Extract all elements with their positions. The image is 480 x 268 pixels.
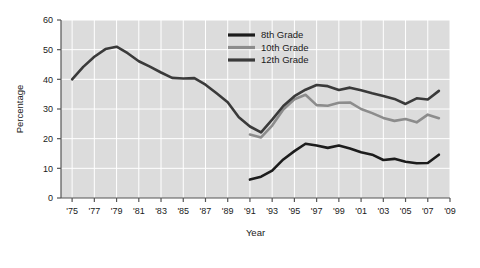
x-tick-label: '77 [88, 206, 100, 216]
x-tick-label: '01 [355, 206, 367, 216]
legend-label: 10th Grade [261, 42, 309, 53]
x-tick-label: '07 [422, 206, 434, 216]
x-tick-label: '97 [311, 206, 323, 216]
x-tick-label: '95 [289, 206, 301, 216]
x-tick-label: '09 [444, 206, 456, 216]
x-tick-label: '93 [266, 206, 278, 216]
y-tick-label: 20 [43, 134, 53, 144]
y-tick-label: 0 [48, 193, 53, 203]
x-tick-label: '89 [222, 206, 234, 216]
y-tick-label: 10 [43, 164, 53, 174]
legend-label: 8th Grade [261, 29, 303, 40]
x-tick-labels: '75'77'79'81'83'85'87'89'91'93'95'97'99'… [66, 206, 456, 216]
x-tick-label: '79 [111, 206, 123, 216]
legend-label: 12th Grade [261, 54, 309, 65]
x-tick-label: '91 [244, 206, 256, 216]
x-tick-label: '05 [400, 206, 412, 216]
x-tick-label: '99 [333, 206, 345, 216]
x-tick-label: '03 [377, 206, 389, 216]
y-tick-label: 30 [43, 104, 53, 114]
line-chart: '75'77'79'81'83'85'87'89'91'93'95'97'99'… [0, 0, 480, 268]
y-tick-label: 50 [43, 45, 53, 55]
y-tick-label: 60 [43, 15, 53, 25]
x-tick-label: '75 [66, 206, 78, 216]
y-tick-labels: 0102030405060 [43, 15, 53, 203]
x-tick-label: '83 [155, 206, 167, 216]
x-tick-label: '81 [133, 206, 145, 216]
x-tick-label: '85 [177, 206, 189, 216]
chart-container: '75'77'79'81'83'85'87'89'91'93'95'97'99'… [0, 0, 480, 268]
x-tick-label: '87 [200, 206, 212, 216]
y-axis-title: Percentage [14, 85, 25, 134]
chart-legend: 8th Grade10th Grade12th Grade [228, 29, 309, 65]
y-tick-label: 40 [43, 75, 53, 85]
x-axis-title: Year [246, 227, 265, 238]
